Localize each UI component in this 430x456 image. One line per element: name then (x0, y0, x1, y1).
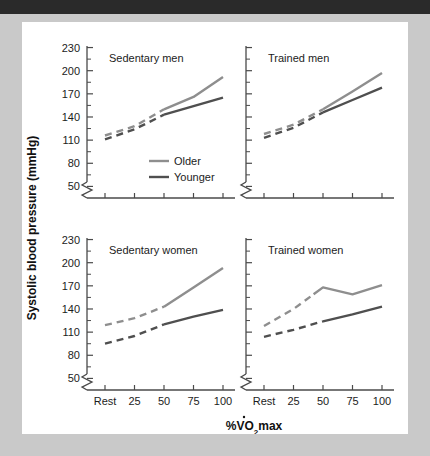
y-tick-label: 110 (62, 134, 80, 146)
top-dark-band (0, 0, 430, 14)
panel-title-sedentary-men: Sedentary men (109, 52, 184, 64)
x-tick-label: 25 (287, 395, 299, 407)
panel-trained-women: Rest255075100Trained women (241, 238, 394, 407)
panel-title-sedentary-women: Sedentary women (109, 244, 198, 256)
y-tick-label: 80 (68, 349, 80, 361)
y-axis-break-sedentary-men (82, 182, 92, 198)
legend-label-older: Older (174, 155, 201, 167)
series-line-dashed-younger (264, 321, 323, 337)
y-tick-label: 170 (62, 280, 80, 292)
y-tick-label: 50 (68, 372, 80, 384)
y-tick-label: 140 (62, 303, 80, 315)
series-line-solid-younger (323, 307, 382, 322)
y-axis-break-sedentary-women (82, 374, 92, 390)
figure-canvas: Systolic blood pressure (mmHg)5080110140… (22, 22, 408, 434)
y-tick-label: 230 (62, 42, 80, 54)
chart-stage: Systolic blood pressure (mmHg)5080110140… (22, 22, 408, 434)
y-axis-break-trained-men (241, 182, 251, 198)
x-tick-label: 75 (187, 395, 199, 407)
x-tick-label: Rest (94, 395, 117, 407)
x-tick-label: Rest (253, 395, 276, 407)
y-axis-title: Systolic blood pressure (mmHg) (25, 136, 39, 321)
x-tick-label: 50 (317, 395, 329, 407)
x-axis-title-max: max (258, 419, 282, 433)
x-axis-title: %VO2max (226, 419, 283, 434)
v-dot-icon (243, 416, 245, 418)
series-line-solid-younger (164, 310, 223, 325)
y-tick-label: 170 (62, 88, 80, 100)
series-line-solid-older (164, 77, 223, 109)
series-line-dashed-older (264, 109, 323, 134)
x-axis-title-o: O (244, 419, 253, 433)
y-tick-label: 200 (62, 65, 80, 77)
panel-title-trained-women: Trained women (268, 244, 343, 256)
series-line-dashed-older (105, 307, 164, 326)
x-tick-label: 100 (214, 395, 232, 407)
y-tick-label: 110 (62, 326, 80, 338)
y-tick-label: 50 (68, 180, 80, 192)
x-axis-title-group: %VO2max (226, 416, 283, 434)
panel-sedentary-women: 5080110140170200230Rest255075100Sedentar… (62, 234, 235, 407)
series-line-dashed-younger (105, 324, 164, 343)
panel-trained-men: Trained men (241, 46, 394, 198)
y-tick-label: 140 (62, 111, 80, 123)
series-line-solid-older (164, 268, 223, 307)
y-axis-title-group: Systolic blood pressure (mmHg) (25, 136, 39, 321)
y-tick-label: 80 (68, 157, 80, 169)
legend: OlderYounger (149, 155, 215, 183)
legend-label-younger: Younger (174, 171, 215, 183)
x-tick-label: 100 (373, 395, 391, 407)
x-tick-label: 75 (346, 395, 358, 407)
x-tick-label: 50 (158, 395, 170, 407)
panel-title-trained-men: Trained men (268, 52, 329, 64)
y-axis-break-trained-women (241, 374, 251, 390)
series-line-dashed-older (264, 294, 314, 326)
y-tick-label: 230 (62, 234, 80, 246)
x-axis-title-pct: %V (226, 419, 245, 433)
x-tick-label: 25 (128, 395, 140, 407)
series-line-dashed-older (105, 109, 164, 135)
series-line-solid-older (314, 285, 382, 294)
chart-svg: Systolic blood pressure (mmHg)5080110140… (22, 22, 408, 434)
y-tick-label: 200 (62, 257, 80, 269)
